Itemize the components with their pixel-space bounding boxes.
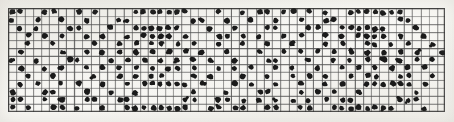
chart-sheet: Filet crochet / cross-stitch pattern cha… xyxy=(0,0,454,122)
pattern-grid xyxy=(8,8,445,112)
filled-stitch-layer xyxy=(8,8,445,112)
